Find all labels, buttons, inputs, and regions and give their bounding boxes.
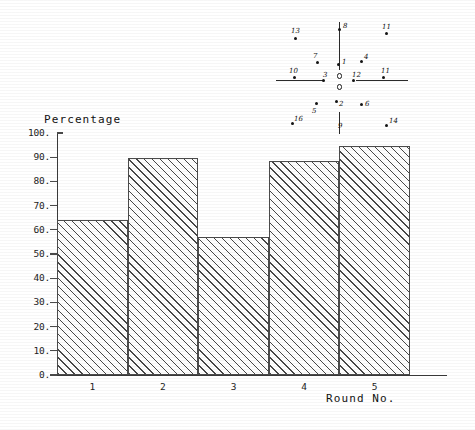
y-axis-tick-label: 100. bbox=[16, 128, 50, 138]
y-axis-tick-label: 10. bbox=[16, 346, 50, 356]
bar bbox=[198, 237, 269, 375]
bar bbox=[339, 146, 410, 375]
y-axis-tick bbox=[57, 132, 63, 133]
chart-canvas: Percentage Round No. 100.90.80.70.60.50.… bbox=[0, 0, 475, 430]
y-axis-tick bbox=[50, 253, 57, 254]
bar bbox=[128, 158, 199, 375]
x-axis-tick-label: 4 bbox=[294, 381, 314, 392]
x-axis-title: Round No. bbox=[326, 392, 396, 405]
y-axis-tick bbox=[50, 205, 57, 206]
y-axis-tick bbox=[50, 302, 57, 303]
y-axis-tick-label: 40. bbox=[16, 273, 50, 283]
x-axis-tick-label: 5 bbox=[365, 381, 385, 392]
y-axis-title: Percentage bbox=[44, 113, 121, 126]
x-axis-tick-label: 1 bbox=[82, 381, 102, 392]
y-axis-tick-label: 0. bbox=[16, 370, 50, 380]
y-axis-tick-label: 60. bbox=[16, 225, 50, 235]
x-axis-tick-label: 2 bbox=[153, 381, 173, 392]
y-axis-tick bbox=[50, 229, 57, 230]
y-axis-tick-label: 80. bbox=[16, 176, 50, 186]
y-axis-tick bbox=[50, 278, 57, 279]
x-axis-tick-label: 3 bbox=[224, 381, 244, 392]
y-axis-tick bbox=[50, 350, 57, 351]
y-axis-tick bbox=[50, 326, 57, 327]
bar bbox=[57, 220, 128, 375]
scan-registration-mark-icon: 13 8 11 7 1 4 10 3 12 11 2 6 5 16 9 14 bbox=[272, 14, 412, 136]
x-axis-line bbox=[57, 375, 447, 376]
y-axis-tick bbox=[50, 181, 57, 182]
y-axis-tick-label: 20. bbox=[16, 322, 50, 332]
y-axis-tick bbox=[50, 157, 57, 158]
y-axis-tick-label: 70. bbox=[16, 201, 50, 211]
y-axis-tick-label: 30. bbox=[16, 297, 50, 307]
y-axis-tick bbox=[50, 374, 57, 375]
bar bbox=[269, 161, 340, 375]
y-axis-tick-label: 50. bbox=[16, 249, 50, 259]
y-axis-tick-label: 90. bbox=[16, 152, 50, 162]
